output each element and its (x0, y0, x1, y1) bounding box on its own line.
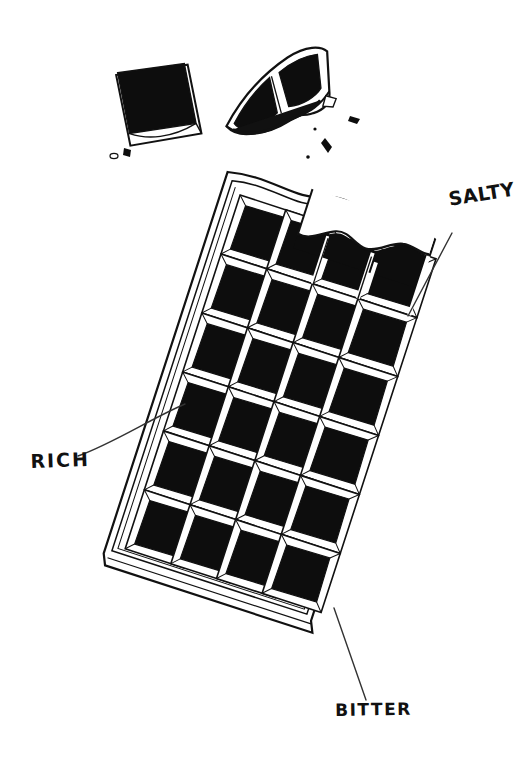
label-bitter: BITTER (335, 699, 412, 720)
label-rich: RICH (30, 448, 90, 472)
illustration-canvas: SALTY RICH BITTER (0, 0, 527, 773)
crumb (313, 127, 316, 130)
chocolate-bar-artwork (0, 0, 527, 773)
crumb (306, 155, 310, 159)
